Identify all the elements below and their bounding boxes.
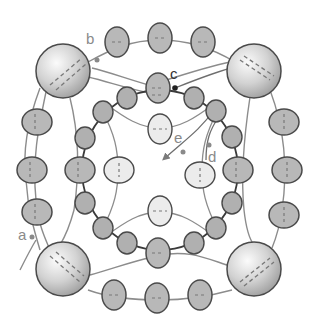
inner-ring-cells bbox=[75, 87, 242, 254]
sphere-top-right bbox=[227, 44, 281, 98]
sphere-top-left bbox=[36, 44, 90, 98]
dot-a bbox=[30, 235, 35, 240]
pale-central-cells bbox=[104, 114, 215, 226]
label-c: c bbox=[170, 65, 178, 82]
dot-e bbox=[181, 150, 186, 155]
sphere-bottom-left bbox=[36, 242, 90, 296]
dot-d bbox=[207, 143, 212, 148]
dot-c bbox=[172, 85, 178, 91]
dot-b bbox=[95, 58, 100, 63]
label-a: a bbox=[18, 226, 27, 243]
label-e: e bbox=[174, 129, 182, 146]
cell-arrangement-diagram: a b c d e bbox=[0, 0, 310, 333]
sphere-bottom-right bbox=[227, 242, 281, 296]
label-b: b bbox=[86, 30, 94, 47]
label-d: d bbox=[208, 148, 216, 165]
